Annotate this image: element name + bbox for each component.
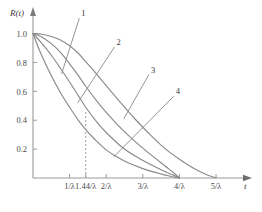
curve-label-3: 3 xyxy=(151,65,155,75)
x-axis-tick-labels: 1/λ1.44/λ2/λ3/λ4/λ5/λ xyxy=(64,181,222,191)
x-axis-title: t xyxy=(244,181,247,191)
x-tick-label: 1.44/λ xyxy=(75,181,97,191)
x-tick-label: 2/λ xyxy=(101,181,113,191)
y-tick-label: 0.2 xyxy=(16,144,27,154)
y-tick-label: 1.0 xyxy=(16,29,27,39)
y-tick-label: 0.6 xyxy=(16,87,27,97)
curve-4 xyxy=(33,34,179,178)
x-tick-label: 5/λ xyxy=(211,181,223,191)
reliability-chart-figure: 1.00.80.60.40.2 1/λ1.44/λ2/λ3/λ4/λ5/λ 12… xyxy=(0,0,262,212)
curve-label-2: 2 xyxy=(116,37,120,47)
curve-label-1: 1 xyxy=(81,8,85,18)
curve-labels-group: 1234 xyxy=(81,8,180,96)
y-axis-ticks xyxy=(33,34,37,150)
axes-group xyxy=(30,7,252,181)
curve-1 xyxy=(33,34,216,178)
x-axis-ticks xyxy=(70,174,216,178)
chart-canvas: 1.00.80.60.40.2 1/λ1.44/λ2/λ3/λ4/λ5/λ 12… xyxy=(0,0,262,212)
y-axis-title: R(t) xyxy=(9,8,24,18)
curve-3 xyxy=(33,34,179,178)
y-tick-label: 0.8 xyxy=(16,58,27,68)
leader-line-3 xyxy=(124,75,149,119)
leader-line-2 xyxy=(78,47,115,103)
curves-group xyxy=(33,34,216,178)
y-tick-label: 0.4 xyxy=(16,115,27,125)
y-axis-tick-labels: 1.00.80.60.40.2 xyxy=(16,29,27,155)
y-axis-arrowhead xyxy=(30,7,36,16)
x-tick-label: 4/λ xyxy=(174,181,186,191)
x-tick-label: 3/λ xyxy=(137,181,149,191)
curve-2 xyxy=(33,34,179,178)
curve-label-4: 4 xyxy=(176,86,181,96)
